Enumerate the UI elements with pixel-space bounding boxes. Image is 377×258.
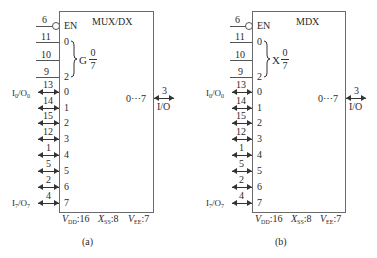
common-pin-number: 3 — [354, 86, 359, 96]
select-line-1 — [230, 60, 252, 61]
enable-pin-number: 6 — [42, 15, 47, 25]
block-title: MDX — [296, 17, 319, 27]
range-bottom: 7 — [281, 61, 289, 71]
brace-icon — [263, 40, 271, 78]
select-line-2 — [36, 77, 59, 78]
io-index: 7 — [64, 198, 69, 208]
block-title: MUX/DX — [92, 17, 133, 27]
group-letter: X — [272, 55, 280, 65]
vss-label: XSS:8 — [291, 214, 312, 227]
select-pin-1: 10 — [41, 50, 51, 60]
select-pin-1: 10 — [235, 50, 245, 60]
select-pin-0: 11 — [41, 32, 51, 42]
diagram-b: MDX 6 EN 11 10 9 0 2 X 0 7 I0/O0 I7/O7 1… — [192, 0, 377, 258]
io-index: 4 — [64, 150, 69, 160]
io-index: 5 — [64, 166, 69, 176]
select-pin-0: 11 — [235, 32, 245, 42]
io-index: 3 — [64, 134, 69, 144]
select-line-1 — [36, 60, 59, 61]
select-bit-last: 2 — [64, 72, 69, 82]
io-pin-number: 12 — [236, 127, 246, 137]
io-pin-number: 15 — [236, 111, 246, 121]
io-pin-number: 4 — [239, 191, 244, 201]
bidirectional-arrow-icon — [38, 200, 59, 207]
external-label-first: I0/O0 — [12, 88, 30, 101]
vee-label: VEE:7 — [320, 214, 341, 227]
vdd-label: VDD:16 — [62, 214, 90, 227]
io-pin-number: 13 — [236, 80, 246, 90]
common-pin-number: 3 — [162, 86, 167, 96]
io-index: 1 — [64, 103, 69, 113]
io-index: 0 — [257, 87, 262, 97]
external-label-first: I0/O0 — [206, 88, 224, 101]
io-index: 4 — [257, 150, 262, 160]
select-pin-2: 9 — [44, 67, 49, 77]
range-bottom: 7 — [89, 61, 97, 71]
io-pin-number: 12 — [43, 127, 53, 137]
group-letter: G — [79, 55, 87, 65]
io-index: 2 — [64, 118, 69, 128]
caption: (a) — [82, 236, 93, 247]
range-top: 0 — [281, 48, 289, 58]
range-top: 0 — [89, 48, 97, 58]
inversion-bubble-icon — [245, 22, 253, 30]
common-internal-label: 0⋯7 — [126, 94, 146, 104]
select-bit-last: 2 — [257, 72, 262, 82]
bidirectional-arrow-icon — [232, 200, 252, 207]
io-pin-number: 5 — [239, 159, 244, 169]
select-pin-2: 9 — [238, 67, 243, 77]
io-pin-number: 1 — [46, 143, 51, 153]
enable-pin-number: 6 — [235, 15, 240, 25]
brace-icon — [70, 40, 78, 78]
io-index: 6 — [257, 182, 262, 192]
io-index: 1 — [257, 103, 262, 113]
select-bit-first: 0 — [64, 37, 69, 47]
common-io-label: I/O — [349, 102, 362, 112]
io-index: 3 — [257, 134, 262, 144]
caption: (b) — [275, 236, 287, 247]
inversion-bubble-icon — [52, 22, 60, 30]
external-label-last: I7/O7 — [12, 198, 30, 211]
io-index: 0 — [64, 87, 69, 97]
io-pin-number: 1 — [239, 143, 244, 153]
diagram-a: MUX/DX 6 EN 11 10 9 0 2 G 0 7 I0/O0 I7/O… — [0, 0, 188, 258]
vss-label: XSS:8 — [98, 214, 119, 227]
io-index: 5 — [257, 166, 262, 176]
enable-label: EN — [257, 21, 270, 31]
select-line-0 — [36, 42, 59, 43]
external-label-last: I7/O7 — [206, 198, 224, 211]
io-index: 2 — [257, 118, 262, 128]
io-index: 7 — [257, 198, 262, 208]
io-pin-number: 2 — [239, 175, 244, 185]
select-line-0 — [230, 42, 252, 43]
select-bit-first: 0 — [257, 37, 262, 47]
enable-label: EN — [64, 21, 77, 31]
io-pin-number: 13 — [43, 80, 53, 90]
io-pin-number: 2 — [46, 175, 51, 185]
io-pin-number: 4 — [46, 191, 51, 201]
io-index: 6 — [64, 182, 69, 192]
common-io-label: I/O — [157, 102, 170, 112]
io-pin-number: 14 — [236, 96, 246, 106]
io-pin-number: 5 — [46, 159, 51, 169]
select-line-2 — [230, 77, 252, 78]
io-pin-number: 15 — [43, 111, 53, 121]
io-pin-number: 14 — [43, 96, 53, 106]
common-internal-label: 0⋯7 — [318, 94, 338, 104]
vdd-label: VDD:16 — [255, 214, 283, 227]
select-range: 0 7 — [89, 48, 97, 71]
vee-label: VEE:7 — [128, 214, 149, 227]
select-range: 0 7 — [281, 48, 289, 71]
